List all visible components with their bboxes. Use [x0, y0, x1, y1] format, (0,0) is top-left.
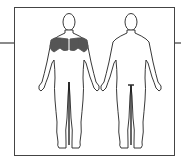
highlight-right-pectoral [70, 38, 78, 51]
front-body-figure [39, 14, 100, 149]
back-body-figure [101, 14, 162, 149]
body-figures [0, 0, 181, 163]
highlight-left-pectoral [60, 38, 68, 51]
